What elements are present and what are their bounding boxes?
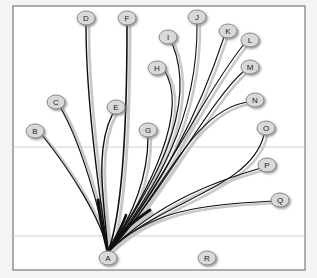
node-G[interactable]: G — [139, 123, 157, 137]
node-label: F — [125, 14, 130, 23]
node-O[interactable]: O — [257, 121, 275, 135]
node-N[interactable]: N — [246, 93, 264, 107]
node-label: C — [53, 98, 59, 107]
node-J[interactable]: J — [188, 10, 206, 24]
node-label: B — [32, 127, 37, 136]
node-label: O — [263, 124, 269, 133]
node-M[interactable]: M — [241, 60, 259, 74]
node-K[interactable]: K — [219, 24, 237, 38]
node-F[interactable]: F — [118, 11, 136, 25]
node-Q[interactable]: Q — [271, 193, 289, 207]
node-label: Q — [277, 196, 283, 205]
diagram-frame — [13, 6, 305, 270]
node-label: P — [264, 161, 269, 170]
node-R[interactable]: R — [198, 251, 216, 265]
node-label: D — [83, 14, 89, 23]
node-label: K — [225, 27, 231, 36]
diagram-canvas: ABCDEFGHIJKLMNOPQR — [0, 0, 317, 278]
node-B[interactable]: B — [26, 124, 44, 138]
tree-diagram: ABCDEFGHIJKLMNOPQR — [0, 0, 317, 278]
node-label: E — [113, 103, 118, 112]
node-C[interactable]: C — [47, 95, 65, 109]
node-label: A — [105, 254, 111, 263]
node-I[interactable]: I — [159, 30, 177, 44]
node-D[interactable]: D — [77, 11, 95, 25]
node-label: L — [248, 36, 253, 45]
node-label: N — [252, 96, 258, 105]
node-H[interactable]: H — [148, 61, 166, 75]
node-A[interactable]: A — [99, 251, 117, 265]
node-label: G — [145, 126, 151, 135]
node-label: H — [154, 64, 160, 73]
node-label: J — [195, 13, 199, 22]
node-E[interactable]: E — [107, 100, 125, 114]
node-P[interactable]: P — [258, 158, 276, 172]
node-label: I — [167, 33, 169, 42]
node-label: R — [204, 254, 210, 263]
node-L[interactable]: L — [241, 33, 259, 47]
node-label: M — [247, 63, 254, 72]
